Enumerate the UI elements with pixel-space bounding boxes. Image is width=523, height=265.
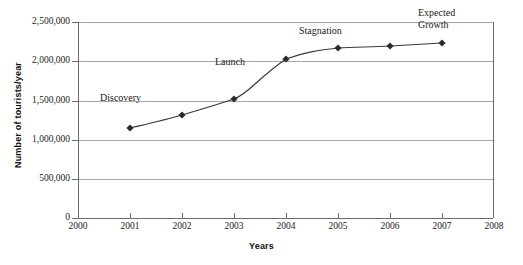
- data-point-2006: [386, 42, 393, 49]
- data-point-2001: [126, 124, 133, 131]
- annotation-launch: Launch: [215, 56, 245, 68]
- data-point-2003: [230, 95, 237, 102]
- axis-lines: [78, 22, 493, 218]
- plot-area: [0, 0, 523, 265]
- tourism-line-chart: Number of tourists/year Years 2,500,000 …: [0, 0, 523, 265]
- annotation-expected-growth: Expected Growth: [418, 7, 455, 30]
- data-point-2002: [178, 111, 185, 118]
- annotation-stagnation: Stagnation: [299, 25, 342, 37]
- x-axis-ticks: [78, 213, 493, 218]
- data-point-2007: [438, 39, 445, 46]
- annotation-discovery: Discovery: [100, 92, 141, 104]
- data-point-2004: [282, 55, 289, 62]
- y-axis-ticks: [72, 22, 78, 218]
- data-point-2005: [334, 44, 341, 51]
